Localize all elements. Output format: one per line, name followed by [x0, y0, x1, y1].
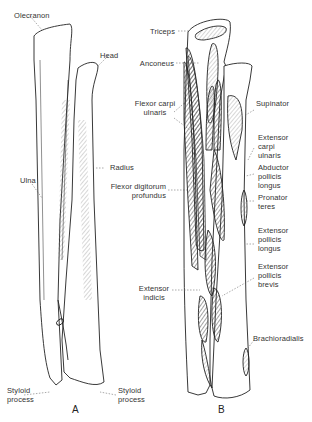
- label-styloid-process-radius: Styloid process: [118, 386, 145, 404]
- label-ecu-line2: carpi: [258, 142, 288, 151]
- label-extensor-pollicis-longus: Extensor pollicis longus: [258, 226, 288, 253]
- caption-a: A: [72, 404, 79, 415]
- caption-b: B: [218, 404, 225, 415]
- label-fcu-line2: ulnaris: [130, 108, 180, 117]
- label-epl-line1: Extensor: [258, 226, 288, 235]
- label-pt-line2: teres: [258, 202, 288, 211]
- label-abductor-pollicis-longus: Abductor pollicis longus: [258, 163, 289, 190]
- label-fdp-line1: Flexor digitorum: [111, 182, 166, 191]
- label-ulna: Ulna: [20, 176, 36, 185]
- label-epl-line3: longus: [258, 244, 288, 253]
- label-pronator-teres: Pronator teres: [258, 193, 288, 211]
- label-olecranon: Olecranon: [14, 11, 50, 20]
- label-pt-line1: Pronator: [258, 193, 288, 202]
- label-epb-line1: Extensor: [258, 262, 288, 271]
- panel-a-bones: [34, 24, 104, 385]
- label-styloid-ulna-line2: process: [7, 395, 34, 404]
- label-epb-line2: pollicis: [258, 271, 288, 280]
- label-head: Head: [100, 51, 118, 60]
- label-apl-line3: longus: [258, 181, 289, 190]
- label-brachioradialis: Brachioradialis: [253, 334, 304, 343]
- label-ei-line1: Extensor: [134, 284, 174, 293]
- label-fdp-line2: profundus: [111, 191, 166, 200]
- label-ecu-line3: ulnaris: [258, 151, 288, 160]
- label-epl-line2: pollicis: [258, 235, 288, 244]
- label-anconeus: Anconeus: [140, 59, 174, 68]
- label-fcu-line1: Flexor carpi: [130, 99, 180, 108]
- label-styloid-process-ulna: Styloid process: [7, 386, 34, 404]
- label-epb-line3: brevis: [258, 280, 288, 289]
- label-radius: Radius: [110, 163, 134, 172]
- label-extensor-carpi-ulnaris: Extensor carpi ulnaris: [258, 133, 288, 160]
- label-styloid-ulna-line1: Styloid: [7, 386, 34, 395]
- label-apl-line2: pollicis: [258, 172, 289, 181]
- label-flexor-carpi-ulnaris: Flexor carpi ulnaris: [130, 99, 180, 117]
- label-ei-line2: indicis: [134, 293, 174, 302]
- label-extensor-pollicis-brevis: Extensor pollicis brevis: [258, 262, 288, 289]
- label-extensor-indicis: Extensor indicis: [134, 284, 174, 302]
- panel-b-bones: [184, 19, 252, 398]
- label-styloid-radius-line1: Styloid: [118, 386, 145, 395]
- label-triceps: Triceps: [150, 27, 175, 36]
- label-apl-line1: Abductor: [258, 163, 289, 172]
- label-ecu-line1: Extensor: [258, 133, 288, 142]
- label-flexor-digitorum-profundus: Flexor digitorum profundus: [111, 182, 166, 200]
- label-styloid-radius-line2: process: [118, 395, 145, 404]
- label-supinator: Supinator: [256, 99, 289, 108]
